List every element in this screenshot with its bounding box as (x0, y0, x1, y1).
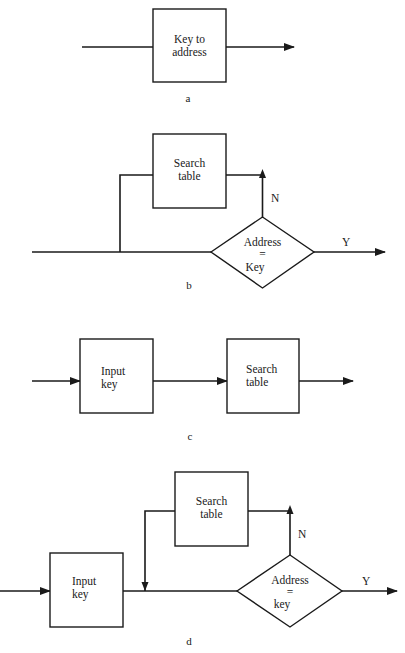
diagram-d: Input key Search table N Address = key Y… (0, 472, 397, 647)
search-table-label-2: table (200, 508, 222, 520)
decision-label-2: = (259, 248, 266, 260)
key-to-address-label-1: Key to (174, 33, 205, 46)
search-table-label-2: table (246, 376, 268, 388)
loop-return-line (145, 511, 175, 591)
decision-label-1: Address (271, 574, 309, 586)
loop-up-line (248, 511, 290, 555)
input-key-label-1: Input (72, 575, 97, 588)
no-label: N (271, 192, 280, 204)
down-arrowhead (142, 582, 149, 591)
caption-a: a (186, 92, 191, 104)
key-to-address-label-2: address (172, 46, 207, 58)
caption-c: c (188, 430, 193, 442)
loop-return-line (226, 175, 263, 217)
search-table-label-1: Search (174, 157, 206, 169)
decision-label-2: = (287, 586, 294, 598)
flowchart-canvas: Key to address a Search table N Address … (0, 0, 405, 653)
decision-label-3: Key (245, 261, 264, 274)
search-table-label-1: Search (196, 495, 228, 507)
input-key-label-1: Input (101, 365, 126, 378)
diagram-b: Search table N Address = Key Y b (32, 134, 385, 291)
caption-d: d (186, 635, 192, 647)
no-label: N (298, 528, 307, 540)
up-arrowhead (259, 169, 266, 178)
search-table-label-2: table (178, 170, 200, 182)
yes-label: Y (342, 236, 351, 248)
up-arrowhead (287, 505, 294, 514)
decision-label-1: Address (244, 236, 282, 248)
yes-label: Y (362, 575, 371, 587)
input-key-label-2: key (101, 378, 118, 391)
diagram-c: Input key Search table c (32, 339, 353, 442)
loop-left-line (120, 175, 153, 252)
caption-b: b (186, 279, 192, 291)
search-table-label-1: Search (246, 363, 278, 375)
input-key-label-2: key (72, 588, 89, 601)
decision-label-3: key (274, 598, 291, 611)
diagram-a: Key to address a (82, 9, 294, 104)
